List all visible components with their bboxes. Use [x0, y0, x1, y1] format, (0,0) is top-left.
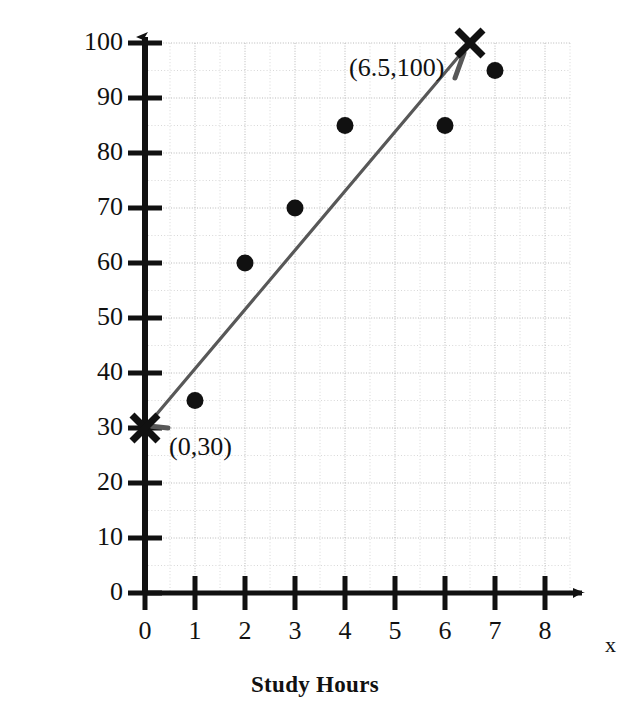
- x-tick-label: 6: [420, 618, 470, 644]
- x-tick-label: 8: [520, 618, 570, 644]
- y-tick-label: 50: [55, 304, 123, 330]
- x-tick-label: 2: [220, 618, 270, 644]
- x-tick-label: 4: [320, 618, 370, 644]
- data-point-marker: [287, 200, 304, 217]
- data-point-marker: [337, 117, 354, 134]
- axis-ticks: [128, 43, 545, 610]
- y-tick-label: 80: [55, 139, 123, 165]
- data-point-marker: [437, 117, 454, 134]
- endpoint-x-marker: [457, 30, 483, 56]
- annotation-leader-lines: [149, 53, 464, 428]
- annotation-leader-line: [149, 426, 168, 428]
- y-tick-label: 70: [55, 194, 123, 220]
- grid-minor: [145, 43, 570, 593]
- x-tick-label: 0: [120, 618, 170, 644]
- y-tick-label: 20: [55, 469, 123, 495]
- x-axis-variable-label: x: [605, 632, 616, 658]
- y-tick-label: 90: [55, 84, 123, 110]
- grid-major: [145, 43, 570, 593]
- data-point-marker: [237, 255, 254, 272]
- axes: [145, 37, 582, 593]
- y-tick-label: 40: [55, 359, 123, 385]
- y-tick-label: 100: [55, 29, 123, 55]
- y-tick-label: 60: [55, 249, 123, 275]
- x-tick-label: 7: [470, 618, 520, 644]
- x-axis-title: Study Hours: [175, 672, 455, 698]
- x-tick-label: 5: [370, 618, 420, 644]
- y-tick-label: 0: [55, 579, 123, 605]
- annotation-lower-point: (0,30): [169, 434, 232, 460]
- y-tick-label: 30: [55, 414, 123, 440]
- annotation-upper-point: (6.5,100): [349, 55, 444, 81]
- x-tick-label: 1: [170, 618, 220, 644]
- y-tick-label: 10: [55, 524, 123, 550]
- scatter-plot-figure: 0102030405060708090100 012345678 Regent'…: [0, 0, 644, 723]
- data-point-marker: [187, 392, 204, 409]
- data-point-marker: [487, 62, 504, 79]
- x-tick-label: 3: [270, 618, 320, 644]
